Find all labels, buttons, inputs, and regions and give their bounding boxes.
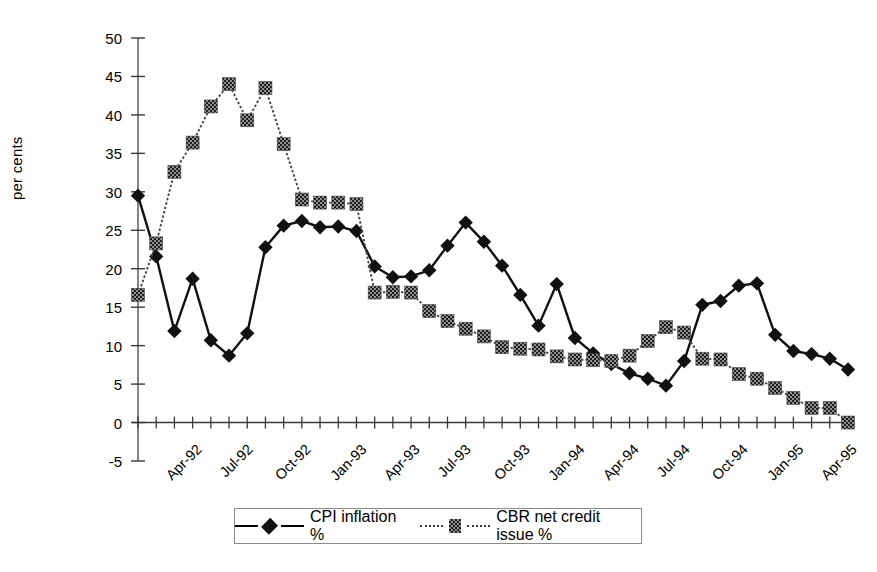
data-point-cbr: [259, 81, 272, 94]
data-point-cpi: [386, 270, 400, 284]
data-point-cbr: [587, 354, 600, 367]
data-point-cbr: [550, 350, 563, 363]
legend-label-cbr: CBR net credit issue %: [496, 508, 641, 544]
data-point-cbr: [314, 196, 327, 209]
data-point-cpi: [404, 269, 418, 283]
data-point-cbr: [769, 381, 782, 394]
data-point-cbr: [496, 341, 509, 354]
data-point-cbr: [568, 353, 581, 366]
data-point-cbr: [168, 165, 181, 178]
data-point-cbr: [623, 349, 636, 362]
data-point-cbr: [514, 342, 527, 355]
data-point-cbr: [332, 196, 345, 209]
data-point-cbr: [350, 198, 363, 211]
data-point-cbr: [678, 326, 691, 339]
legend-line-dotted-icon: [420, 525, 443, 527]
data-point-cbr: [405, 286, 418, 299]
data-point-cbr: [386, 285, 399, 298]
data-point-cpi: [167, 324, 181, 338]
data-point-cbr: [714, 353, 727, 366]
data-point-cbr: [186, 136, 199, 149]
legend-item-cbr[interactable]: CBR net credit issue %: [420, 508, 641, 544]
data-point-cpi: [841, 362, 855, 376]
data-point-cbr: [732, 368, 745, 381]
data-point-cbr: [241, 114, 254, 127]
data-point-cbr: [277, 138, 290, 151]
data-point-cpi: [331, 219, 345, 233]
data-point-cbr: [696, 352, 709, 365]
data-point-cbr: [805, 401, 818, 414]
diamond-marker-icon: [261, 517, 278, 534]
data-point-cbr: [605, 355, 618, 368]
data-point-cbr: [659, 321, 672, 334]
data-point-cbr: [150, 237, 163, 250]
data-point-cpi: [531, 318, 545, 332]
data-point-cpi: [550, 277, 564, 291]
data-point-cbr: [423, 305, 436, 318]
data-point-cbr: [295, 193, 308, 206]
data-point-cpi: [695, 298, 709, 312]
legend-line-dotted-icon: [467, 525, 490, 527]
legend-line-solid-icon: [235, 525, 258, 527]
legend-item-cpi[interactable]: CPI inflation %: [235, 508, 402, 544]
data-point-cbr: [532, 343, 545, 356]
data-point-cpi: [750, 276, 764, 290]
data-point-cpi: [313, 220, 327, 234]
data-point-cbr: [132, 288, 145, 301]
data-point-cpi: [622, 366, 636, 380]
chart-container: per cents 50454035302520151050-5 Apr-92J…: [0, 0, 877, 572]
data-point-cbr: [842, 416, 855, 429]
data-point-cpi: [804, 347, 818, 361]
data-point-cbr: [477, 330, 490, 343]
data-point-cpi: [185, 272, 199, 286]
data-point-cbr: [787, 391, 800, 404]
chart-legend: CPI inflation % CBR net credit issue %: [234, 508, 642, 544]
square-marker-icon: [449, 519, 461, 533]
data-point-cbr: [223, 78, 236, 91]
data-point-cbr: [459, 322, 472, 335]
data-point-cbr: [441, 315, 454, 328]
legend-label-cpi: CPI inflation %: [310, 508, 402, 544]
data-point-cpi: [295, 214, 309, 228]
legend-line-solid-icon: [281, 525, 304, 527]
data-point-cbr: [368, 286, 381, 299]
series-line-cpi: [138, 196, 848, 386]
data-point-cbr: [641, 335, 654, 348]
data-point-cpi: [513, 288, 527, 302]
data-point-cbr: [823, 401, 836, 414]
data-point-cpi: [641, 372, 655, 386]
data-point-cbr: [204, 100, 217, 113]
plot-svg: [0, 0, 877, 572]
data-point-cpi: [823, 352, 837, 366]
data-point-cpi: [131, 188, 145, 202]
data-point-cbr: [750, 372, 763, 385]
